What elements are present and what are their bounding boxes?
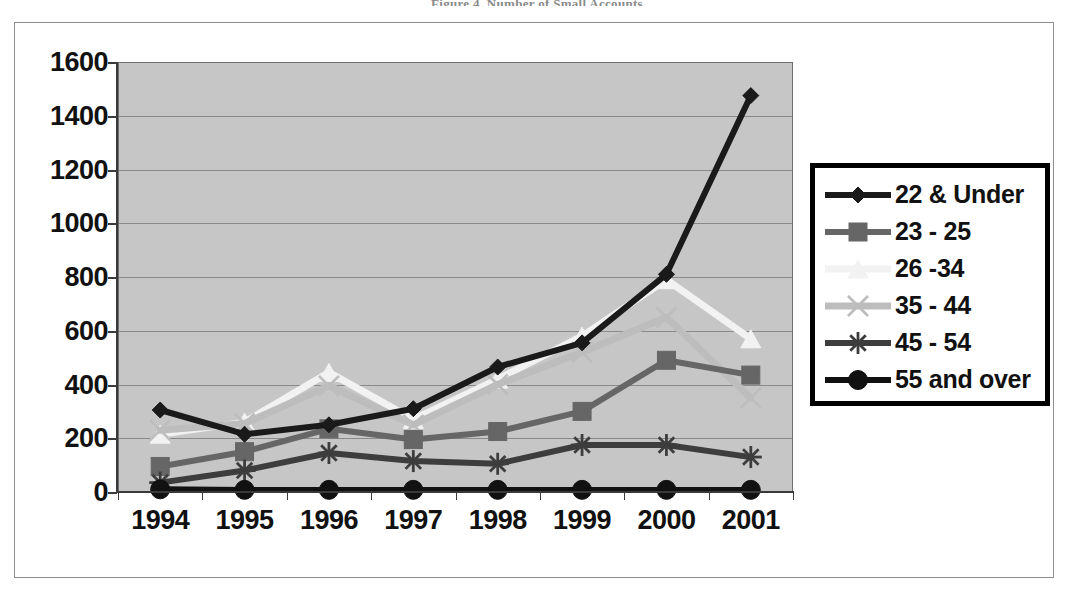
data-point-diamond xyxy=(850,187,866,203)
x-axis-tick-label: 1999 xyxy=(553,505,611,536)
y-axis-tick-label: 0 xyxy=(93,477,108,508)
data-point-square xyxy=(742,366,760,384)
x-axis-tick xyxy=(287,491,288,500)
data-point-circle xyxy=(151,480,170,499)
series-layer xyxy=(118,62,793,492)
data-point-square xyxy=(849,223,867,241)
series-22-under xyxy=(152,88,759,443)
y-axis-tick-label: 1600 xyxy=(50,47,108,78)
legend-item-45-54[interactable]: 45 - 54 xyxy=(821,324,1045,361)
x-axis-tick xyxy=(371,491,372,500)
plot-area xyxy=(118,62,793,492)
chart-page: Figure 4. Number of Small Accounts 02004… xyxy=(0,0,1074,598)
document-figure-title: Figure 4. Number of Small Accounts xyxy=(0,0,1074,6)
x-axis-tick-label: 1996 xyxy=(300,505,358,536)
series-23-25 xyxy=(151,351,760,475)
y-axis-tick-label: 600 xyxy=(64,315,108,346)
y-axis-line xyxy=(116,62,118,493)
data-point-circle xyxy=(488,480,507,499)
data-point-circle xyxy=(319,480,338,499)
data-point-square xyxy=(657,351,675,369)
legend-label: 55 and over xyxy=(895,365,1031,394)
y-axis-tick-label: 400 xyxy=(64,369,108,400)
legend-item-35-44[interactable]: 35 - 44 xyxy=(821,287,1045,324)
x-axis-tick-label: 1998 xyxy=(469,505,527,536)
data-point-diamond xyxy=(152,402,168,418)
data-point-square xyxy=(573,402,591,420)
legend-label: 23 - 25 xyxy=(895,217,971,246)
legend-label: 22 & Under xyxy=(895,180,1024,209)
data-point-circle xyxy=(657,480,676,499)
data-point-square xyxy=(404,431,422,449)
legend-label: 35 - 44 xyxy=(895,291,971,320)
data-point-star xyxy=(318,442,340,464)
y-axis-tick-label: 800 xyxy=(64,262,108,293)
y-axis-tick-label: 1200 xyxy=(50,154,108,185)
legend-entries: 22 & Under23 - 2526 -3435 - 4445 - 5455 … xyxy=(815,168,1045,401)
data-point-star xyxy=(402,450,424,472)
data-point-x xyxy=(741,388,761,408)
legend-item-22-under[interactable]: 22 & Under xyxy=(821,176,1045,213)
y-axis-tick-label: 200 xyxy=(64,423,108,454)
x-axis-tick-label: 1994 xyxy=(131,505,189,536)
legend-marker-x-icon xyxy=(821,289,895,323)
legend-label: 45 - 54 xyxy=(895,328,971,357)
data-point-star xyxy=(740,446,762,468)
x-axis-labels: 19941995199619971998199920002001 xyxy=(118,505,793,545)
series-35-44 xyxy=(150,307,761,440)
data-point-square xyxy=(236,443,254,461)
legend-marker-star-icon xyxy=(821,326,895,360)
x-axis-tick xyxy=(202,491,203,500)
legend-item-23-25[interactable]: 23 - 25 xyxy=(821,213,1045,250)
x-axis-tick-label: 2001 xyxy=(722,505,780,536)
y-axis-labels: 02004006008001000120014001600 xyxy=(0,0,108,598)
legend-box: 22 & Under23 - 2526 -3435 - 4445 - 5455 … xyxy=(810,163,1050,406)
x-axis-tick-label: 1997 xyxy=(384,505,442,536)
data-point-circle xyxy=(849,370,868,389)
data-point-circle xyxy=(741,480,760,499)
x-axis-tick-label: 1995 xyxy=(216,505,274,536)
data-point-star xyxy=(655,434,677,456)
x-axis-tick xyxy=(624,491,625,500)
legend-label: 26 -34 xyxy=(895,254,964,283)
data-point-circle xyxy=(573,480,592,499)
x-axis-tick xyxy=(118,491,119,500)
legend-marker-circle-icon xyxy=(821,363,895,397)
data-point-star xyxy=(847,332,869,354)
y-axis-tick-label: 1400 xyxy=(50,100,108,131)
data-point-star xyxy=(571,434,593,456)
x-axis-tick xyxy=(540,491,541,500)
data-point-circle xyxy=(235,480,254,499)
x-axis-line xyxy=(118,491,794,493)
data-point-square xyxy=(489,423,507,441)
legend-marker-square-icon xyxy=(821,215,895,249)
x-axis-tick-label: 2000 xyxy=(637,505,695,536)
legend-marker-triangle-icon xyxy=(821,252,895,286)
x-axis-tick xyxy=(709,491,710,500)
legend-item-26-34[interactable]: 26 -34 xyxy=(821,250,1045,287)
legend-marker-diamond-icon xyxy=(821,178,895,212)
data-point-star xyxy=(234,460,256,482)
data-point-circle xyxy=(404,480,423,499)
y-axis-tick-label: 1000 xyxy=(50,208,108,239)
x-axis-tick xyxy=(456,491,457,500)
legend-item-55-and-over[interactable]: 55 and over xyxy=(821,361,1045,398)
x-axis-tick xyxy=(793,491,794,500)
data-point-star xyxy=(487,453,509,475)
